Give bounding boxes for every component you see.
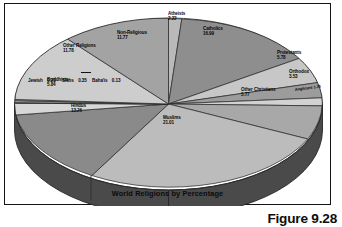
- slice-label-other-religions: Other Religions 11.78: [63, 44, 96, 54]
- chart-title: World Religions by Percentage: [5, 189, 330, 198]
- slice-label-jewish-name: Jewish: [28, 78, 43, 83]
- slice-label-sikhs-name: Sikhs: [62, 78, 74, 83]
- slice-label-orthodox-value: 3.53: [289, 75, 309, 80]
- slice-label-non-religious-value: 11.77: [117, 36, 147, 41]
- slice-label-catholics-value: 16.99: [203, 32, 223, 37]
- pie-chart-svg: [5, 4, 332, 206]
- slice-label-bahais-value: 0.13: [112, 78, 121, 83]
- slice-label-non-religious: Non-Religious 11.77: [117, 31, 147, 41]
- slice-label-other-christians: Other Christians 5.77: [241, 88, 275, 98]
- pie-slices: [14, 18, 322, 187]
- slice-label-protestants: Protestants 5.78: [277, 51, 301, 61]
- slice-label-jewish: Jewish 0.23: [28, 68, 56, 85]
- figure-caption: Figure 9.28: [267, 211, 337, 226]
- slice-label-hindus: Hindus 13.26: [71, 104, 86, 114]
- slice-label-orthodox: Orthodox 3.53: [289, 70, 309, 80]
- chart-frame: Atheists 2.22 Catholics 16.99 Protestant…: [4, 3, 331, 205]
- slice-label-anglicans-value: 1.35: [313, 83, 321, 89]
- leader-line-bahais: [81, 72, 91, 73]
- slice-label-bahais-name: Baha'is: [92, 78, 107, 83]
- slice-label-catholics: Catholics 16.99: [203, 27, 223, 37]
- slice-label-atheists-value: 2.22: [168, 17, 185, 22]
- slice-label-hindus-value: 13.26: [71, 109, 86, 114]
- slice-label-bahais: Baha'is 0.13: [92, 68, 120, 85]
- slice-label-other-religions-value: 11.78: [63, 49, 96, 54]
- slice-label-other-christians-value: 5.77: [241, 93, 275, 98]
- slice-label-atheists: Atheists 2.22: [168, 12, 185, 22]
- pie-chart: Atheists 2.22 Catholics 16.99 Protestant…: [5, 4, 330, 204]
- slice-label-sikhs-value: 0.35: [78, 78, 87, 83]
- slice-label-muslims: Muslims 21.01: [163, 116, 181, 126]
- slice-label-muslims-value: 21.01: [163, 121, 181, 126]
- slice-label-jewish-value: 0.23: [47, 78, 56, 83]
- slice-label-protestants-value: 5.78: [277, 56, 301, 61]
- figure-container: Atheists 2.22 Catholics 16.99 Protestant…: [0, 0, 342, 227]
